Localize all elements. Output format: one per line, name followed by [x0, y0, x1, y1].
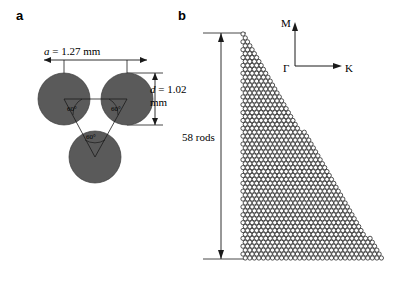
lattice-rod — [298, 193, 302, 197]
lattice-rod — [270, 256, 274, 260]
lattice-rod — [257, 99, 261, 103]
lattice-rod — [293, 217, 297, 221]
lattice-rod — [252, 209, 256, 213]
panel-b-graphics — [203, 22, 384, 260]
lattice-rod — [291, 158, 295, 162]
lattice-rod — [279, 146, 283, 150]
lattice-rod — [254, 221, 258, 225]
lattice-rod — [279, 201, 283, 205]
lattice-rod — [295, 150, 299, 154]
lattice-rod — [261, 138, 265, 142]
lattice-rod — [250, 181, 254, 185]
lattice-rod — [275, 217, 279, 221]
lattice-rod — [289, 193, 293, 197]
lattice-rod — [304, 142, 308, 146]
lattice-rod — [311, 256, 315, 260]
lattice-rod — [327, 252, 331, 256]
lattice-rod — [248, 122, 252, 126]
lattice-rod — [273, 221, 277, 225]
lattice-rod — [316, 193, 320, 197]
lattice-rod — [304, 213, 308, 217]
lattice-rod — [291, 221, 295, 225]
lattice-rod — [345, 205, 349, 209]
lattice-rod — [300, 205, 304, 209]
lattice-rod — [282, 158, 286, 162]
lattice-rod — [336, 228, 340, 232]
lattice-rod — [261, 122, 265, 126]
lattice-rod — [261, 185, 265, 189]
lattice-rod — [359, 228, 363, 232]
lattice-rod — [282, 142, 286, 146]
lattice-rod — [313, 150, 317, 154]
lattice-rod — [243, 146, 247, 150]
lattice-rod — [329, 177, 333, 181]
lattice-rod — [245, 158, 249, 162]
lattice-rod — [366, 248, 370, 252]
lattice-rod — [284, 193, 288, 197]
lattice-rod — [338, 232, 342, 236]
lattice-rod — [254, 252, 258, 256]
lattice-rod — [327, 205, 331, 209]
lattice-rod — [338, 224, 342, 228]
lattice-rod — [248, 162, 252, 166]
lattice-rod — [323, 189, 327, 193]
lattice-rod — [270, 146, 274, 150]
lattice-rod — [293, 130, 297, 134]
lattice-rod — [311, 146, 315, 150]
lattice-rod — [291, 244, 295, 248]
lattice-rod — [298, 169, 302, 173]
lattice-rod — [307, 209, 311, 213]
lattice-rod — [293, 224, 297, 228]
lattice-rod — [268, 197, 272, 201]
lattice-rod — [291, 197, 295, 201]
lattice-rod — [279, 130, 283, 134]
lattice-rod — [241, 165, 245, 169]
lattice-rod — [293, 232, 297, 236]
panel-a-graphics: 60° 60° 60° — [38, 57, 163, 183]
lattice-rod — [295, 165, 299, 169]
lattice-rod — [298, 201, 302, 205]
lattice-rod — [279, 256, 283, 260]
lattice-rod — [307, 256, 311, 260]
lattice-rod — [241, 244, 245, 248]
lattice-rod — [241, 110, 245, 114]
lattice-rod — [329, 201, 333, 205]
lattice-rod — [266, 224, 270, 228]
lattice-rod — [270, 99, 274, 103]
lattice-rod — [266, 162, 270, 166]
lattice-rod — [334, 217, 338, 221]
lattice-rod — [300, 134, 304, 138]
lattice-rod — [250, 197, 254, 201]
lattice-rod — [270, 83, 274, 87]
lattice-rod — [248, 209, 252, 213]
lattice-rod — [254, 71, 258, 75]
lattice-rod — [325, 217, 329, 221]
lattice-rod — [257, 162, 261, 166]
lattice-rod — [279, 99, 283, 103]
lattice-rod — [284, 169, 288, 173]
lattice-rod — [289, 248, 293, 252]
lattice-rod — [341, 221, 345, 225]
lattice-rod — [282, 228, 286, 232]
lattice-rod — [295, 213, 299, 217]
lattice-rod — [266, 240, 270, 244]
lattice-rod — [345, 252, 349, 256]
lattice-rod — [363, 236, 367, 240]
lattice-rod — [318, 213, 322, 217]
lattice-rod — [254, 79, 258, 83]
lattice-rod — [252, 154, 256, 158]
lattice-rod — [309, 244, 313, 248]
lattice-rod — [282, 126, 286, 130]
lattice-rod — [307, 185, 311, 189]
lattice-rod — [309, 221, 313, 225]
lattice-rod — [282, 205, 286, 209]
lattice-rod — [261, 162, 265, 166]
lattice-rod — [279, 232, 283, 236]
lattice-rod — [241, 79, 245, 83]
lattice-rod — [241, 126, 245, 130]
lattice-rod — [261, 154, 265, 158]
lattice-rod — [327, 189, 331, 193]
lattice-rod — [264, 173, 268, 177]
lattice-rod — [259, 87, 263, 91]
lattice-rod — [245, 142, 249, 146]
